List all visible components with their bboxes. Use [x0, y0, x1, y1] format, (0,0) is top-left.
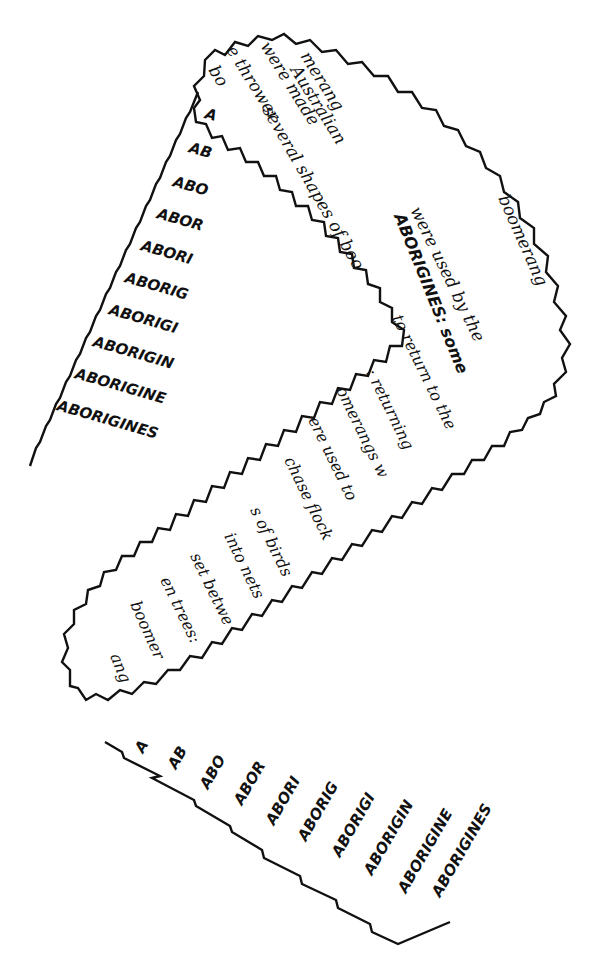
staircase-word: ABORIGINE [72, 364, 169, 408]
band-line: boomerang [494, 191, 552, 288]
bottom-staircase: A AB ABO ABOR ABORI ABORIG ABORIGI ABORI… [130, 737, 495, 901]
staircase-word: ABORIG [293, 778, 342, 844]
top-staircase: A AB ABO ABOR ABORI ABORIG ABORIGI ABORI… [54, 104, 219, 442]
staircase-word: A [202, 104, 219, 125]
staircase-word: ABORIGIN [90, 332, 176, 373]
band-line: boomer [126, 598, 169, 663]
staircase-word: ABORIGI [106, 300, 180, 337]
band-line: bo [205, 62, 233, 91]
staircase-word: AB [163, 743, 191, 773]
band-line: several shapes of boo [259, 102, 369, 273]
artwork-canvas: bo e thrower were made Australian merang… [0, 0, 611, 957]
staircase-word: AB [186, 138, 214, 162]
staircase-word: A [130, 737, 152, 757]
bottom-staircase-rule [105, 742, 450, 944]
staircase-word: ABORI [138, 236, 195, 268]
staircase-word: ABO [195, 752, 229, 793]
staircase-word: ABOR [154, 204, 205, 235]
band-line: ang [106, 650, 135, 685]
band-line: en trees: [156, 573, 204, 646]
staircase-word: ABOR [229, 758, 269, 809]
staircase-word: ABO [170, 172, 211, 200]
staircase-word: ABORIG [122, 268, 191, 304]
staircase-word: ABORIGINES [54, 396, 160, 442]
staircase-word: ABORI [261, 773, 304, 829]
